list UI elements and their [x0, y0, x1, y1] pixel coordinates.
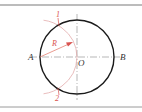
diagram-frame: 1 R A B O 2: [0, 0, 142, 112]
label-o: O: [78, 58, 85, 68]
construction-diagram: 1 R A B O 2: [0, 0, 142, 112]
label-1: 1: [56, 10, 60, 19]
label-a: A: [27, 52, 34, 62]
label-2: 2: [55, 94, 59, 103]
label-b: B: [120, 52, 126, 62]
radius-arrowhead: [66, 42, 73, 47]
label-r: R: [51, 39, 57, 48]
